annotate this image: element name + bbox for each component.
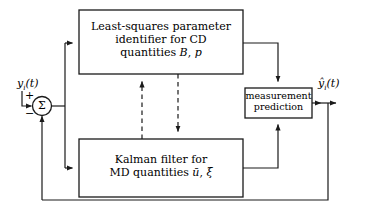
diagram-canvas	[0, 0, 368, 218]
block-measurement-prediction	[245, 88, 312, 118]
block-kalman-filter	[79, 139, 243, 197]
kalman-output-wire	[243, 125, 278, 169]
block-diagram: Least-squares parameter identifier for C…	[0, 0, 368, 218]
output-signal-label: ŷi(t)	[318, 77, 340, 92]
block-ls-identifier	[79, 10, 243, 74]
summation-symbol: Σ	[32, 100, 52, 111]
ls-identifier-output-wire	[243, 43, 278, 82]
output-label-arg: (t)	[327, 77, 340, 90]
